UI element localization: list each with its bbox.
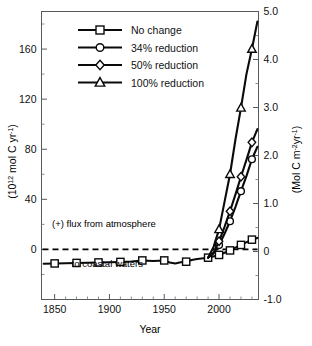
legend-label: No change [131,24,182,36]
y-tick-label-left: 160 [19,43,37,55]
y-tick-label-left: 120 [19,93,37,105]
data-point-circle-marker [238,188,245,195]
x-tick-label: 1950 [153,303,177,315]
data-point-square-marker [183,258,190,265]
data-point-square-marker [215,251,222,258]
y-tick-label-right: 1.0 [264,197,279,209]
data-point-square-marker [96,26,104,34]
line-chart: 1850190019502000 04080120160 -1.001.02.0… [0,0,312,346]
data-point-triangle-marker [248,45,257,53]
y-axis-right-title: (Mol C m-2yr-1) [290,126,302,193]
chart-annotation: (+) flux from atmosphere [52,218,156,229]
data-point-square-marker [161,257,168,264]
legend-item-100-reduction: 100% reduction [78,77,204,89]
data-point-square-marker [226,247,233,254]
data-point-triangle-marker [215,225,224,233]
legend-item-34-reduction: 34% reduction [78,42,198,54]
y-axis-left-ticks: 04080120160 [19,24,47,274]
data-point-diamond-marker [248,138,255,147]
x-axis-title: Year [139,323,161,335]
x-tick-label: 1900 [98,303,122,315]
y-tick-label-left: 40 [25,193,37,205]
legend-label: 100% reduction [131,77,204,89]
y-tick-label-left: 80 [25,143,37,155]
legend-item-50-reduction: 50% reduction [78,59,198,71]
y-tick-label-right: 4.0 [264,53,279,65]
chart-annotation: to coastal waters [72,258,144,269]
figure-container: 1850190019502000 04080120160 -1.001.02.0… [0,0,312,346]
x-axis-ticks: 1850190019502000 [43,294,252,315]
y-tick-label-right: 0 [264,245,270,257]
data-point-square-marker [51,260,58,267]
plot-frame [42,12,259,300]
data-point-circle-marker [96,44,104,52]
x-tick-label: 2000 [207,303,231,315]
legend-label: 34% reduction [131,42,198,54]
data-point-circle-marker [249,156,256,163]
annotation-group: (+) flux from atmosphereto coastal water… [52,218,156,269]
y-tick-label-left: 0 [31,243,37,255]
y-tick-label-right: 2.0 [264,149,279,161]
legend-item-no-change: No change [78,24,182,36]
y-tick-label-right: 3.0 [264,101,279,113]
data-point-diamond-marker [96,60,104,70]
y-axis-left-title: (1012 mol C yr-1) [6,124,18,199]
data-point-diamond-marker [237,173,244,182]
chart-legend: No change34% reduction50% reduction100% … [78,24,204,89]
x-tick-label: 1850 [43,303,67,315]
data-point-square-marker [248,236,255,243]
data-point-square-marker [237,241,244,248]
legend-label: 50% reduction [131,59,198,71]
y-tick-label-right: 5.0 [264,5,279,17]
y-tick-label-right: -1.0 [264,293,282,305]
y-axis-right-ticks: -1.001.02.03.04.05.0 [253,5,282,305]
data-point-triangle-marker [237,103,246,111]
data-point-triangle-marker [226,170,235,178]
